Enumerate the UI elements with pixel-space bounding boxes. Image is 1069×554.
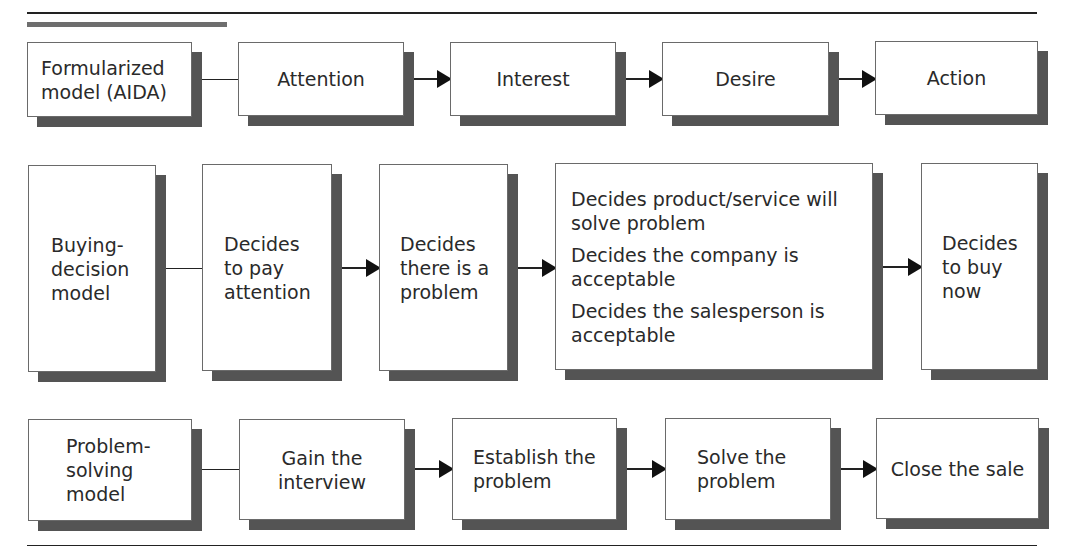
- box-text: Decides the salesperson is: [571, 299, 825, 323]
- connector-line: [166, 268, 202, 269]
- box-text: Interest: [496, 67, 569, 91]
- box-text: Formularized: [41, 56, 167, 80]
- buying-step-pay-attention: Decides to pay attention: [202, 164, 332, 371]
- box-text: Solve the: [697, 445, 786, 469]
- problem-solving-model-label-box: Problem- solving model: [28, 419, 192, 521]
- box-text: acceptable: [571, 323, 825, 347]
- accent-bar: [27, 22, 227, 27]
- box-text: decision: [51, 257, 129, 281]
- connector-line: [202, 79, 238, 80]
- box-text: interview: [278, 470, 366, 494]
- box-text: problem: [473, 469, 596, 493]
- box-text: Establish the: [473, 445, 596, 469]
- arrow-right-icon: [883, 266, 921, 268]
- buying-decision-model-label-box: Buying- decision model: [28, 165, 156, 372]
- box-text: Gain the: [278, 446, 366, 470]
- criterion-item: Decides the salesperson is acceptable: [571, 299, 825, 347]
- box-text: Decides: [942, 231, 1018, 255]
- box-text: Close the sale: [891, 457, 1025, 481]
- box-text: attention: [224, 280, 311, 304]
- box-text: Decides: [400, 232, 489, 256]
- box-text: now: [942, 279, 1018, 303]
- aida-step-attention: Attention: [238, 42, 404, 116]
- arrow-right-icon: [518, 267, 555, 269]
- box-text: Attention: [277, 67, 365, 91]
- problem-solving-step-close-sale: Close the sale: [876, 418, 1039, 519]
- arrow-right-icon: [415, 468, 452, 470]
- buying-step-buy-now: Decides to buy now: [921, 163, 1038, 370]
- arrow-right-icon: [841, 468, 876, 470]
- box-text: problem: [400, 280, 489, 304]
- box-text: problem: [697, 469, 786, 493]
- bottom-rule: [27, 545, 1037, 546]
- arrow-right-icon: [839, 78, 875, 80]
- box-text: Buying-: [51, 233, 129, 257]
- box-text: to buy: [942, 255, 1018, 279]
- arrow-right-icon: [627, 468, 665, 470]
- box-text: model: [51, 281, 129, 305]
- top-rule: [27, 12, 1037, 14]
- aida-step-desire: Desire: [662, 42, 829, 116]
- box-text: Action: [927, 66, 987, 90]
- arrow-right-icon: [342, 267, 379, 269]
- box-text: Desire: [715, 67, 776, 91]
- problem-solving-step-establish-problem: Establish the problem: [452, 418, 617, 520]
- aida-model-label-box: Formularized model (AIDA): [27, 42, 192, 117]
- box-text: Decides product/service will: [571, 187, 838, 211]
- box-text: solve problem: [571, 211, 838, 235]
- box-text: model: [66, 482, 151, 506]
- box-text: Decides the company is: [571, 243, 799, 267]
- problem-solving-step-solve-problem: Solve the problem: [665, 418, 831, 520]
- box-text: there is a: [400, 256, 489, 280]
- box-text: model (AIDA): [41, 80, 167, 104]
- box-text: solving: [66, 458, 151, 482]
- buying-step-recognize-problem: Decides there is a problem: [379, 164, 508, 371]
- box-text: Problem-: [66, 434, 151, 458]
- box-text: to pay: [224, 256, 311, 280]
- aida-step-action: Action: [875, 41, 1038, 115]
- aida-step-interest: Interest: [450, 42, 616, 116]
- criterion-item: Decides the company is acceptable: [571, 243, 799, 291]
- box-text: Decides: [224, 232, 311, 256]
- arrow-right-icon: [626, 78, 662, 80]
- connector-line: [202, 469, 239, 470]
- buying-step-evaluate: Decides product/service will solve probl…: [555, 163, 873, 370]
- arrow-right-icon: [414, 78, 450, 80]
- problem-solving-step-gain-interview: Gain the interview: [239, 419, 405, 520]
- box-text: acceptable: [571, 267, 799, 291]
- criterion-item: Decides product/service will solve probl…: [571, 187, 838, 235]
